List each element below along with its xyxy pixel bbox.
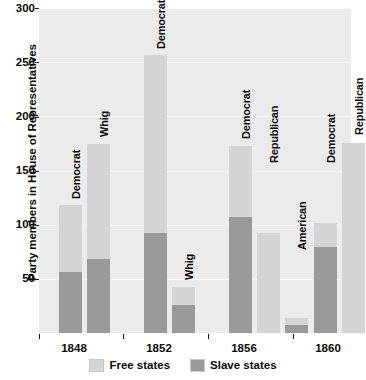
bar-segment-slave [229, 217, 252, 333]
x-tick-mark-1848 [39, 334, 40, 339]
bar-segment-free [285, 318, 308, 325]
bar-label-1856-american: American [296, 201, 308, 250]
bar-label-1848-democrat: Democrat [70, 150, 82, 199]
bar-label-1860-democrat: Democrat [325, 114, 337, 163]
bar-1856-democrat [229, 146, 252, 333]
legend-label-slave-states: Slave states [210, 359, 277, 371]
bar-segment-free [144, 55, 167, 233]
bar-1852-whig [172, 287, 195, 333]
y-tick-label-200: 200 [4, 110, 35, 122]
bar-segment-slave [87, 259, 110, 333]
gridline-300 [39, 8, 351, 9]
y-tick-label-300: 300 [4, 2, 35, 14]
y-tick-label-50: 50 [4, 272, 35, 284]
x-tick-mark-1852 [123, 334, 124, 339]
bar-segment-free [229, 146, 252, 217]
bar-segment-slave [314, 247, 337, 333]
bar-segment-free [172, 287, 195, 305]
y-tick-label-250: 250 [4, 56, 35, 68]
bar-segment-free [314, 223, 337, 247]
bar-label-1856-democrat: Democrat [240, 90, 252, 139]
bar-label-1852-whig: Whig [183, 254, 195, 280]
x-tick-label-1856: 1856 [224, 342, 264, 354]
y-tick-label-100: 100 [4, 218, 35, 230]
legend-label-free-states: Free states [109, 359, 170, 371]
bar-label-1848-whig: Whig [98, 111, 110, 137]
bar-1856-american [285, 318, 308, 333]
bar-segment-slave [285, 325, 308, 333]
bar-1860-democrat [314, 223, 337, 333]
bar-segment-free [59, 205, 82, 272]
bar-segment-free [257, 233, 280, 333]
chart-legend: Free states Slave states [0, 355, 366, 375]
bar-1848-democrat [59, 205, 82, 333]
legend-swatch-slave-states [190, 359, 205, 372]
bar-label-1852-democrat: Democrat [155, 0, 167, 49]
x-tick-label-1852: 1852 [139, 342, 179, 354]
gridline-250 [39, 62, 351, 63]
x-tick-mark-1856 [208, 334, 209, 339]
x-tick-mark-1860 [293, 334, 294, 339]
bar-label-1860-republican: Republican [353, 78, 365, 135]
legend-swatch-free-states [89, 359, 104, 372]
bar-segment-slave [172, 305, 195, 333]
bar-1860-republican [342, 143, 365, 333]
gridline-200 [39, 116, 351, 117]
y-tick-label-150: 150 [4, 164, 35, 176]
legend-item-free-states: Free states [89, 359, 170, 372]
bar-segment-free [342, 143, 365, 333]
x-tick-label-1848: 1848 [54, 342, 94, 354]
chart-figure: Party members in House of Representative… [0, 0, 366, 380]
bar-1848-whig [87, 144, 110, 333]
bar-1852-democrat [144, 55, 167, 333]
bar-segment-slave [59, 272, 82, 333]
gridline-150 [39, 171, 351, 172]
x-tick-label-1860: 1860 [308, 342, 348, 354]
bar-1856-republican [257, 233, 280, 333]
legend-item-slave-states: Slave states [190, 359, 277, 372]
bar-segment-free [87, 144, 110, 259]
plot-area: Democrat Whig Democrat Whig Democrat Rep… [39, 8, 351, 333]
bar-label-1856-republican: Republican [268, 106, 280, 163]
gridline-50 [39, 279, 351, 280]
bar-segment-slave [144, 233, 167, 333]
